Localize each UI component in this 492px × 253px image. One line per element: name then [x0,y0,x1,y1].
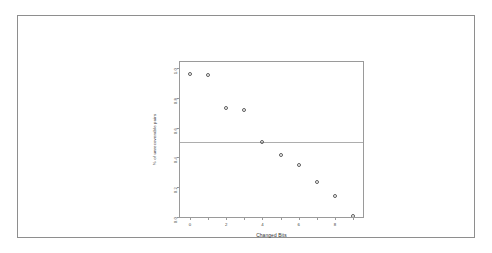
x-minor-tick-1 [208,217,209,220]
x-tick-8 [335,217,336,220]
data-point [188,72,192,76]
plot-data-area [180,62,363,217]
x-minor-tick-7 [317,217,318,220]
y-tick-label-5: 1.0 [173,68,178,74]
x-tick-label-4: 4 [261,222,263,227]
x-minor-tick-5 [281,217,282,220]
x-tick-0 [190,217,191,220]
data-point [297,163,301,167]
y-tick-label-0: 0.0 [173,217,178,223]
x-tick-label-8: 8 [334,222,336,227]
y-axis-title-text: % of unrecoverable pairs [153,114,158,165]
data-point [242,108,246,112]
x-tick-label-6: 6 [297,222,299,227]
data-point [351,214,355,217]
page-border: % of unrecoverable pairs 0.0 0.2 0.4 0.6… [17,15,475,238]
data-point [315,180,319,184]
data-point [333,194,337,198]
x-tick-label-0: 0 [189,222,191,227]
chart-figure: % of unrecoverable pairs 0.0 0.2 0.4 0.6… [143,51,383,241]
data-point [260,140,264,144]
y-tick-label-1: 0.2 [173,187,178,193]
x-tick-6 [299,217,300,220]
x-tick-2 [226,217,227,220]
x-tick-4 [262,217,263,220]
y-tick-label-3: 0.6 [173,128,178,134]
data-point [224,106,228,110]
y-tick-label-4: 0.8 [173,98,178,104]
y-axis-title: % of unrecoverable pairs [150,61,160,218]
x-tick-label-2: 2 [225,222,227,227]
plot-panel: 0.0 0.2 0.4 0.6 0.8 1.0 0 2 4 [179,61,364,218]
data-point [279,153,283,157]
document-page: % of unrecoverable pairs 0.0 0.2 0.4 0.6… [0,0,492,253]
x-minor-tick-3 [244,217,245,220]
data-point [206,73,210,77]
x-axis-title: Changed Bits [179,233,364,238]
x-minor-tick-9 [353,217,354,220]
y-tick-label-2: 0.4 [173,157,178,163]
reference-line-half [180,142,363,143]
